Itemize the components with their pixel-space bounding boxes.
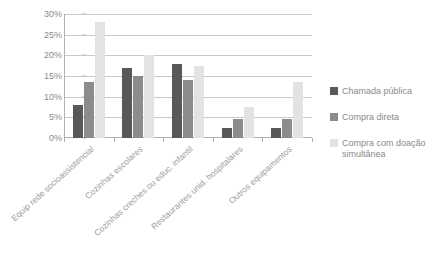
- x-axis-tick-mark: [64, 138, 65, 142]
- legend-swatch-icon: [330, 113, 338, 121]
- bar[interactable]: [222, 128, 232, 138]
- x-axis-tick-mark: [213, 138, 214, 142]
- y-axis-tick-label: 5%: [49, 113, 62, 122]
- bar[interactable]: [282, 119, 292, 138]
- y-axis-tick-label: 25%: [44, 30, 62, 39]
- legend-item[interactable]: Compra com doação simultânea: [330, 138, 442, 160]
- y-axis-tick-label: 10%: [44, 92, 62, 101]
- x-axis-category-label: Outros equipamentos: [139, 144, 294, 261]
- bar[interactable]: [144, 55, 154, 138]
- y-axis-tick-label: 30%: [44, 10, 62, 19]
- bar[interactable]: [73, 105, 83, 138]
- legend-swatch-icon: [330, 139, 338, 147]
- x-axis-category-label: Cozinhas escolares: [0, 144, 145, 261]
- y-axis-tick-label: 20%: [44, 51, 62, 60]
- plot-area: [64, 14, 312, 138]
- legend-item-label: Chamada pública: [342, 86, 412, 97]
- bar[interactable]: [95, 22, 105, 138]
- y-axis-tick-label: 0%: [49, 134, 62, 143]
- bar[interactable]: [271, 128, 281, 138]
- bar[interactable]: [194, 66, 204, 138]
- chart-legend: Chamada públicaCompra diretaCompra com d…: [330, 86, 442, 175]
- bar[interactable]: [233, 119, 243, 138]
- legend-item[interactable]: Compra direta: [330, 112, 442, 123]
- bar-group: [222, 14, 254, 138]
- x-axis-tick-mark: [312, 138, 313, 142]
- bar[interactable]: [244, 107, 254, 138]
- bars-layer: [64, 14, 312, 138]
- x-axis-tick-mark: [163, 138, 164, 142]
- bar-chart: 0%5%10%15%20%25%30% Equip rede socioassi…: [0, 0, 446, 261]
- x-axis-tick-mark: [114, 138, 115, 142]
- bar[interactable]: [133, 76, 143, 138]
- legend-item[interactable]: Chamada pública: [330, 86, 442, 97]
- y-axis-tick-label: 15%: [44, 72, 62, 81]
- x-axis-category-label: Cozinhas creches ou educ. infantil: [39, 144, 194, 261]
- y-axis: 0%5%10%15%20%25%30%: [22, 14, 62, 138]
- legend-item-label: Compra direta: [342, 112, 399, 123]
- bar-group: [172, 14, 204, 138]
- bar[interactable]: [84, 82, 94, 138]
- bar-group: [122, 14, 154, 138]
- x-axis-category-label: Equip rede socioassistencial: [0, 144, 96, 261]
- bar[interactable]: [172, 64, 182, 138]
- bar[interactable]: [293, 82, 303, 138]
- x-axis-category-label: Restaurantes unid. hospitalares: [89, 144, 244, 261]
- bar[interactable]: [122, 68, 132, 138]
- bar[interactable]: [183, 80, 193, 138]
- legend-swatch-icon: [330, 87, 338, 95]
- legend-item-label: Compra com doação simultânea: [342, 138, 442, 160]
- bar-group: [271, 14, 303, 138]
- x-axis-tick-mark: [262, 138, 263, 142]
- bar-group: [73, 14, 105, 138]
